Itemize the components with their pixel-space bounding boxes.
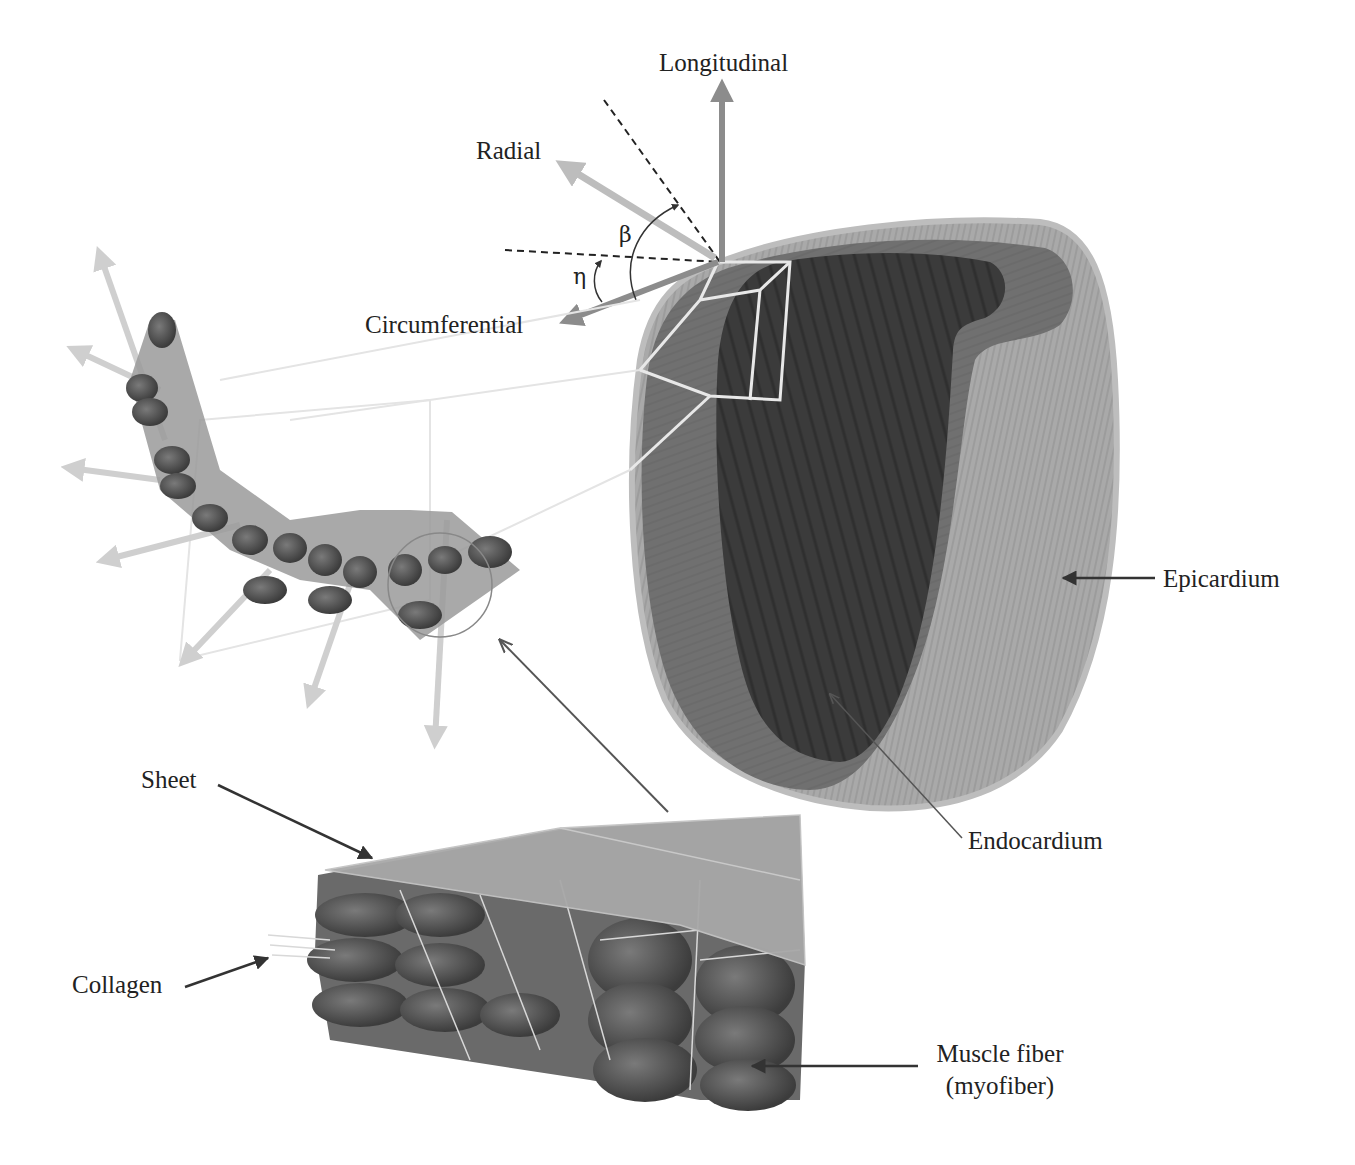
endocardium-label: Endocardium [968, 828, 1103, 853]
heart-left-ventricle [630, 220, 1117, 808]
collagen-label: Collagen [72, 972, 162, 997]
epicardium-label: Epicardium [1163, 566, 1280, 591]
radial-arrow [565, 166, 715, 258]
cardiac-fiber-architecture-figure: Longitudinal Radial Circumferential β η … [0, 0, 1355, 1165]
circumferential-label: Circumferential [365, 312, 523, 337]
radial-label: Radial [476, 138, 541, 163]
magnification-leader [500, 640, 668, 812]
muscle-fiber-label-line2: (myofiber) [920, 1070, 1080, 1102]
collagen-leader [185, 958, 268, 987]
sheet-label: Sheet [141, 767, 197, 792]
myocardial-tissue-block [268, 815, 805, 1111]
muscle-fiber-label-line1: Muscle fiber [920, 1038, 1080, 1070]
muscle-fiber-label: Muscle fiber (myofiber) [920, 1038, 1080, 1102]
dashed-reference-horizontal [505, 250, 720, 262]
sheet-leader [218, 785, 372, 858]
eta-symbol: η [573, 266, 586, 288]
longitudinal-label: Longitudinal [659, 50, 788, 75]
beta-symbol: β [619, 224, 632, 246]
eta-angle-arc [594, 261, 602, 302]
